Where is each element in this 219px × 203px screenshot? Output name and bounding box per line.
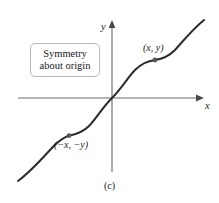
x-axis-arrowhead: [196, 95, 204, 102]
point-marker-lower: [67, 133, 72, 138]
point-label-lower: (−x, −y): [54, 139, 88, 150]
symmetry-callout-box: Symmetry about origin: [30, 43, 100, 77]
figure-caption: (c): [0, 180, 219, 191]
y-axis-arrowhead: [109, 20, 116, 28]
point-label-upper: (x, y): [143, 42, 164, 53]
symmetry-about-origin-figure: Symmetry about origin y x (x, y) (−x, −y…: [0, 0, 219, 203]
y-axis-label: y: [101, 21, 106, 32]
callout-line-1: Symmetry: [43, 48, 87, 60]
x-axis-label: x: [205, 100, 210, 111]
callout-line-2: about origin: [39, 60, 90, 72]
coordinate-plane-graphic: [0, 0, 219, 203]
point-marker-upper: [153, 58, 158, 63]
